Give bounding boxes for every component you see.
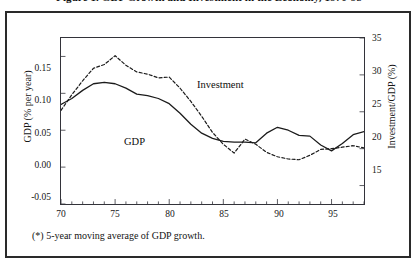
y-left-tick-3: 0.00 — [11, 160, 51, 170]
y-right-tick-1: 30 — [372, 66, 402, 76]
plot-area — [60, 37, 365, 205]
x-tick-0: 70 — [46, 209, 76, 219]
y-left-tick-2: 0.05 — [11, 128, 51, 138]
y-right-tick-2: 25 — [372, 99, 402, 109]
figure-title: Figure 1. GDP Growth and Investment in t… — [0, 0, 418, 3]
y-right-tick-0: 35 — [372, 33, 402, 43]
x-tick-5: 95 — [318, 209, 348, 219]
figure-footnote: (*) 5-year moving average of GDP growth. — [32, 230, 205, 241]
y-axis-left-title: GDP (% per year) — [22, 32, 33, 182]
x-tick-2: 80 — [155, 209, 185, 219]
gdp-curve — [61, 82, 364, 151]
investment-series-label: Investment — [197, 79, 244, 90]
x-tick-4: 90 — [264, 209, 294, 219]
y-right-tick-3: 20 — [372, 132, 402, 142]
y-left-tick-0: 0.15 — [11, 63, 51, 73]
investment-curve — [61, 56, 364, 160]
y-left-tick-1: 0.10 — [11, 95, 51, 105]
y-right-tick-4: 15 — [372, 165, 402, 175]
x-tick-3: 85 — [209, 209, 239, 219]
chart-svg — [61, 38, 364, 204]
figure-container: Figure 1. GDP Growth and Investment in t… — [0, 0, 418, 265]
y-left-tick-4: -0.05 — [11, 192, 51, 202]
x-tick-1: 75 — [100, 209, 130, 219]
gdp-series-label: GDP — [124, 136, 145, 147]
